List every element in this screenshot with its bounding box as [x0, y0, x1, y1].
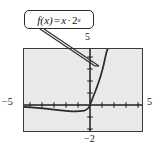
x-axis — [24, 102, 143, 108]
y-min-label: −2 — [84, 133, 95, 144]
function-label-callout: f(x) = x · 2 x — [24, 10, 94, 29]
function-formula-text: f(x) = x · 2 x — [25, 11, 93, 28]
viewing-window — [23, 48, 143, 132]
graph-figure: f(x) = x · 2 x — [0, 0, 162, 156]
plot-canvas — [24, 49, 143, 132]
formula-fx: f(x) — [37, 14, 53, 26]
x-max-label: 5 — [147, 96, 152, 107]
y-max-label: 5 — [85, 31, 90, 42]
y-axis — [87, 49, 93, 132]
x-min-label: −5 — [2, 96, 13, 107]
formula-equals: = — [53, 14, 61, 26]
formula-base: 2 — [72, 14, 78, 26]
function-curve — [24, 49, 108, 111]
